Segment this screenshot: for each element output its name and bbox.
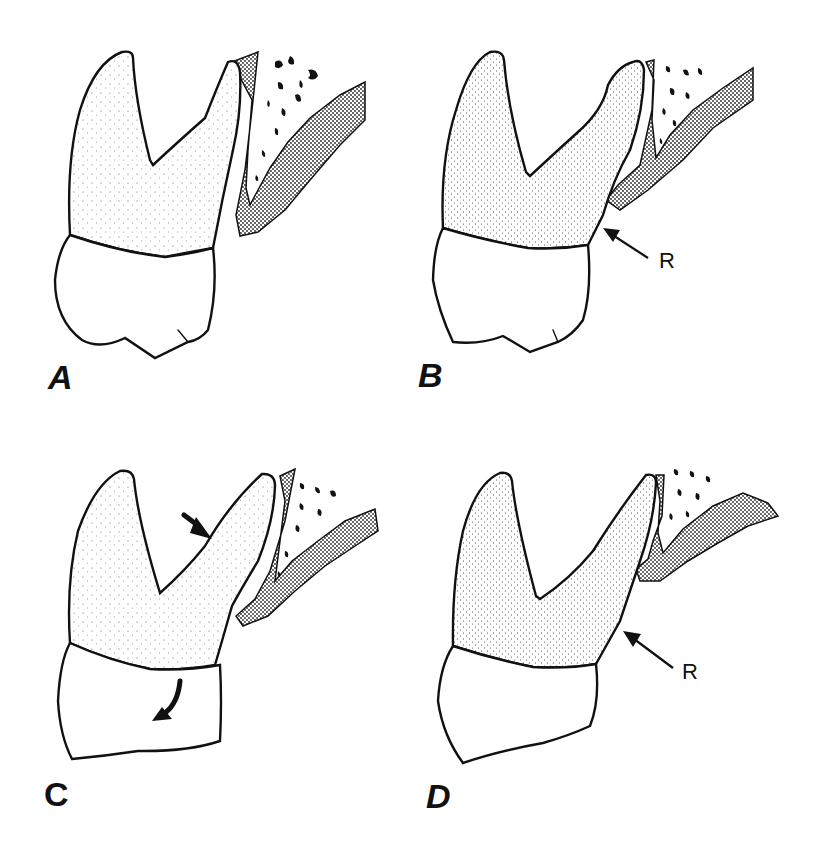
tooth-diagram-b [408,0,816,421]
tooth-crown [433,228,589,352]
panel-label-b: B [418,358,443,392]
recession-label-d: R [682,661,698,683]
tooth-root [69,471,275,670]
panel-label-d: D [426,779,451,813]
panel-a: A [0,0,408,421]
tooth-root [453,473,656,668]
cortical-bone [232,52,365,236]
recession-arrow [623,631,673,668]
tooth-diagram-d [408,421,816,842]
force-arrow [184,515,212,539]
panel-d: R D [408,421,816,842]
tooth-root [69,52,240,257]
tooth-root [443,52,644,249]
panel-label-a: A [48,360,73,394]
panel-label-c: C [44,777,69,811]
cortical-bone [636,475,778,581]
recession-label-b: R [659,250,675,272]
tooth-crown [55,235,215,358]
recession-arrow [603,228,648,258]
panel-c: C [0,421,408,842]
panel-b: R B [408,0,816,421]
